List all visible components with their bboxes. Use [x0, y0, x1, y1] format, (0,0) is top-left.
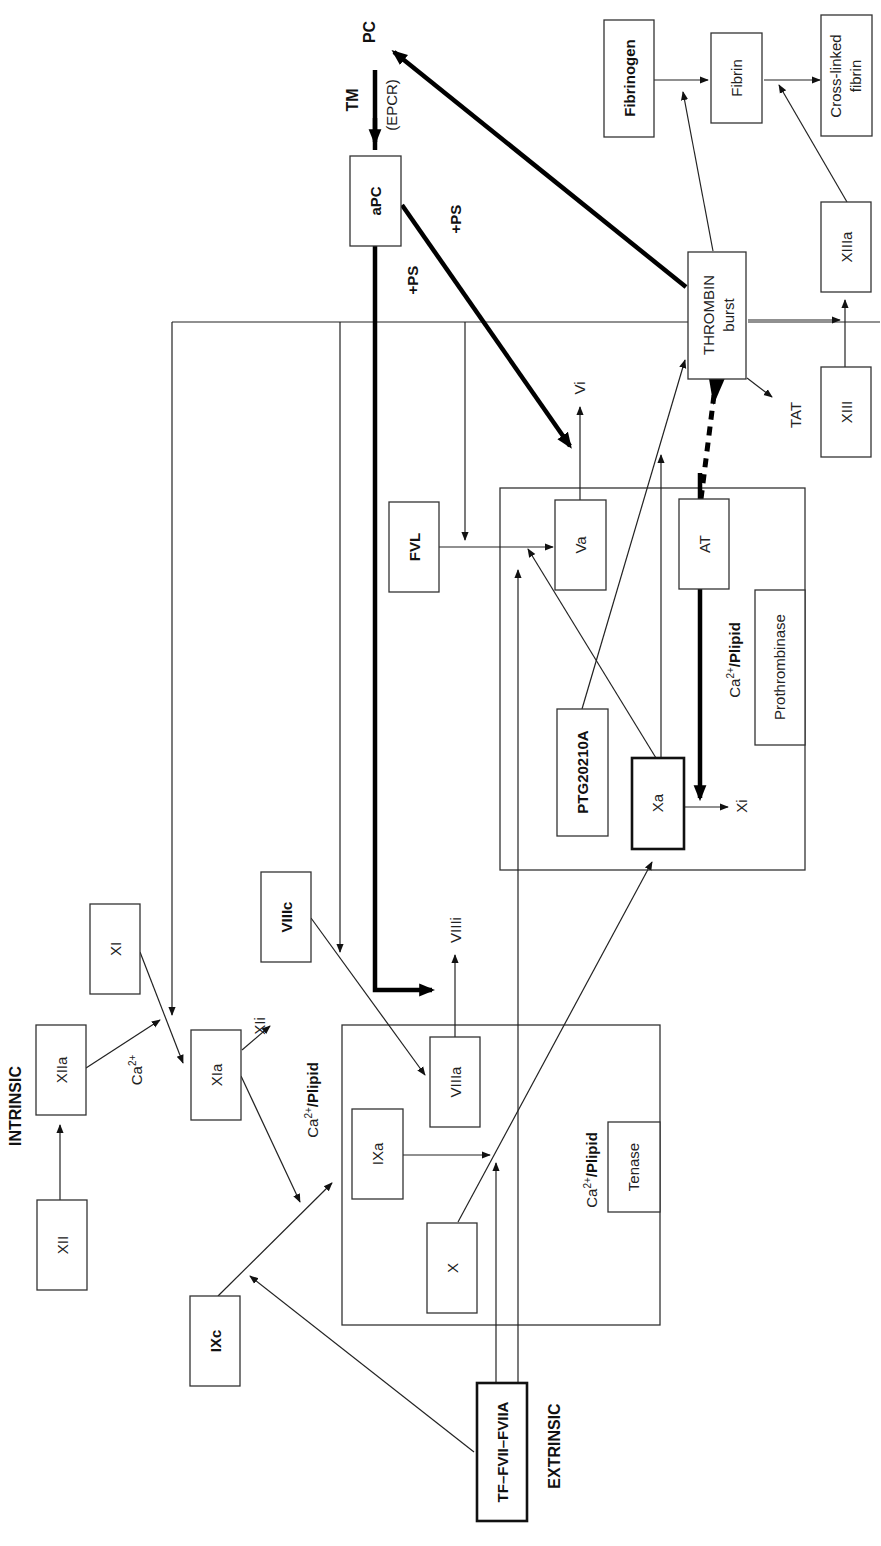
svg-text:XIIa: XIIa: [53, 1056, 70, 1083]
xii-inactive-label: XIi: [251, 1017, 268, 1035]
viiii-label: VIIIi: [447, 917, 464, 943]
ps-label-va: +PS: [447, 205, 464, 234]
ps-label-viiia: +PS: [404, 266, 421, 295]
arrow-apc-to-va-inactivation: [402, 205, 570, 446]
svg-text:burst: burst: [720, 298, 737, 332]
svg-text:XI: XI: [107, 942, 124, 956]
node-xiiia: XIIIa: [821, 202, 871, 292]
ca-label-intrinsic: Ca2+: [127, 1055, 145, 1086]
node-apc: aPC: [350, 156, 401, 246]
node-ptg20210a: PTG20210A: [557, 709, 608, 836]
arrow-thrombin-to-tat: [747, 378, 772, 397]
svg-text:PTG20210A: PTG20210A: [574, 730, 591, 814]
svg-text:IXa: IXa: [369, 1142, 386, 1165]
arrow-at-to-thrombin-dashed: [701, 395, 714, 499]
svg-text:THROMBIN: THROMBIN: [700, 275, 717, 355]
intrinsic-pathway-label: INTRINSIC: [7, 1066, 24, 1146]
node-xii-label: XII: [54, 1236, 71, 1254]
node-xia: XIa: [191, 1030, 241, 1120]
svg-text:Fibrin: Fibrin: [728, 59, 745, 97]
node-ixc: IXc: [190, 1296, 240, 1386]
epcr-label: (EPCR): [383, 79, 400, 131]
node-xiii: XIII: [821, 367, 871, 457]
svg-text:X: X: [444, 1263, 461, 1273]
svg-text:TF–FVII–FVIIA: TF–FVII–FVIIA: [494, 1401, 511, 1502]
arrow-xia-to-ixc-activation: [241, 1076, 300, 1202]
arrow-xi-to-xia: [140, 952, 183, 1063]
ca-plipid-label-prothrombinase: Ca2+/Plipid: [725, 622, 743, 698]
ca-plipid-label-upper: Ca2+/Plipid: [303, 1062, 321, 1138]
svg-text:fibrin: fibrin: [847, 60, 864, 93]
node-cross-linked-fibrin: Cross-linked fibrin: [821, 15, 872, 136]
svg-text:VIIIa: VIIIa: [447, 1066, 464, 1098]
svg-text:IXc: IXc: [207, 1330, 224, 1353]
node-va: Va: [555, 500, 606, 590]
extrinsic-pathway-label: EXTRINSIC: [546, 1403, 563, 1489]
svg-text:XIIIa: XIIIa: [838, 231, 855, 263]
svg-text:Xa: Xa: [649, 793, 666, 812]
xi-inactive-label: Xi: [733, 799, 750, 812]
svg-text:XIa: XIa: [208, 1063, 225, 1086]
prothrombinase-label: Prothrombinase: [771, 614, 788, 720]
arrow-viiic-to-viiia: [311, 918, 425, 1075]
svg-text:aPC: aPC: [367, 186, 384, 215]
node-xa: Xa: [632, 758, 684, 849]
tat-label: TAT: [787, 402, 804, 428]
node-thrombin-burst: THROMBIN burst: [688, 252, 746, 379]
node-viiic: VIIIc: [261, 872, 311, 962]
node-viiia: VIIIa: [430, 1037, 480, 1127]
svg-text:AT: AT: [696, 535, 713, 553]
node-xi: XI: [90, 904, 140, 994]
coagulation-cascade-diagram: XII XIIa XI XIa IXc IXa VIIIa X VIIIc TF…: [0, 0, 881, 1546]
svg-text:VIIIc: VIIIc: [278, 902, 295, 933]
pc-label: PC: [361, 20, 378, 43]
ca-plipid-label-tenase: Ca2+/Plipid: [582, 1132, 600, 1208]
tenase-label: Tenase: [625, 1143, 642, 1191]
node-tf-fvii-fviia: TF–FVII–FVIIA: [477, 1383, 527, 1521]
node-fvl: FVL: [389, 502, 439, 592]
vi-label: Vi: [571, 381, 588, 394]
svg-text:Fibrinogen: Fibrinogen: [621, 39, 638, 117]
arrow-xiia-to-xi-activation: [86, 1020, 160, 1068]
svg-text:XIII: XIII: [838, 401, 855, 424]
arrow-apc-to-viiia-inactivation: [375, 246, 432, 990]
node-at: AT: [679, 499, 729, 589]
arrow-thrombin-to-fibrin: [683, 92, 713, 251]
tm-label: TM: [344, 88, 361, 111]
node-fibrin: Fibrin: [711, 33, 762, 123]
node-x: X: [427, 1223, 477, 1313]
svg-text:Cross-linked: Cross-linked: [827, 34, 844, 117]
node-xii: XII: [37, 1200, 87, 1290]
svg-text:Va: Va: [572, 536, 589, 554]
node-fibrinogen: Fibrinogen: [604, 20, 654, 137]
arrow-ixc-to-ixa: [218, 1183, 332, 1296]
node-xiia: XIIa: [36, 1025, 86, 1115]
node-ixa: IXa: [352, 1109, 403, 1199]
svg-text:FVL: FVL: [406, 533, 423, 561]
